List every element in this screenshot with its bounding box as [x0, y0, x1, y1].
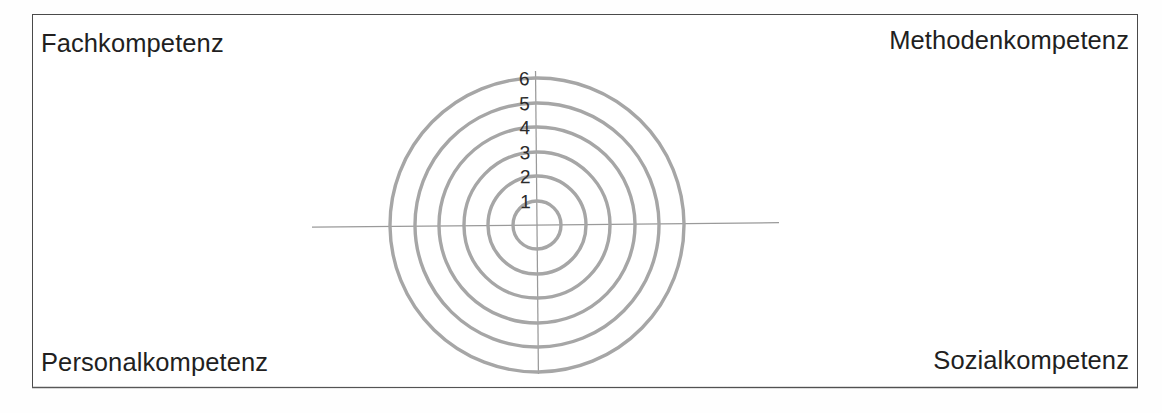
corner-label-sozialkompetenz: Sozialkompetenz	[933, 348, 1129, 374]
radar-ring-2	[488, 176, 587, 275]
scale-tick-1: 1	[520, 191, 531, 212]
radar-ring-5	[414, 102, 660, 348]
radar-scale-labels: 6 5 4 3 2 1	[519, 68, 531, 212]
scale-tick-6: 6	[519, 68, 530, 89]
radar-ring-4	[438, 126, 636, 324]
radar-grid-rings	[389, 77, 686, 374]
radar-ring-1	[513, 201, 561, 249]
diagram-frame: Fachkompetenz Methodenkompetenz Personal…	[32, 14, 1138, 388]
radar-target-diagram: 6 5 4 3 2 1	[33, 15, 1139, 389]
page-canvas: Fachkompetenz Methodenkompetenz Personal…	[0, 0, 1162, 413]
corner-label-methodenkompetenz: Methodenkompetenz	[889, 28, 1129, 54]
scale-tick-3: 3	[520, 142, 531, 163]
radar-axes	[311, 69, 781, 376]
scale-tick-5: 5	[519, 93, 530, 114]
corner-label-fachkompetenz: Fachkompetenz	[41, 31, 224, 57]
scale-tick-4: 4	[519, 117, 530, 138]
radar-axis-horizontal	[312, 223, 779, 227]
radar-target-svg: 6 5 4 3 2 1	[33, 15, 1139, 389]
radar-ring-3	[463, 151, 610, 298]
corner-label-personalkompetenz: Personalkompetenz	[41, 350, 268, 376]
radar-axis-vertical	[536, 71, 539, 374]
scale-tick-2: 2	[520, 166, 531, 187]
radar-ring-6	[389, 77, 686, 374]
